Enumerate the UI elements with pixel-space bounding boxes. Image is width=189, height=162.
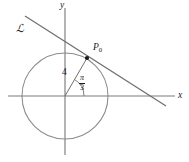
tangent-point-subscript: 0 (99, 46, 102, 53)
tangent-line-figure: ℒ P0 4 π 3 x y (0, 0, 189, 162)
tangent-point-dot (85, 56, 89, 60)
tangent-point-label: P0 (93, 43, 102, 53)
x-axis-label: x (178, 91, 182, 101)
angle-numerator: π (79, 74, 85, 82)
angle-fraction: π 3 (79, 74, 85, 92)
tangent-line-label: ℒ (16, 23, 24, 34)
tangent-line (25, 16, 166, 106)
y-axis-label: y (60, 1, 64, 11)
radius-length-label: 4 (62, 68, 67, 78)
angle-label: π 3 (79, 74, 85, 92)
angle-denominator: 3 (79, 84, 85, 92)
figure-canvas (0, 0, 189, 162)
tangent-point-letter: P (93, 42, 99, 52)
